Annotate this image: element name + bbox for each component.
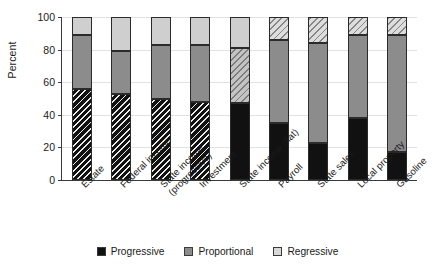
- bar-segment-progressive: [111, 94, 131, 180]
- bar-segment-proportional: [111, 51, 131, 93]
- legend-label: Regressive: [287, 246, 338, 257]
- bar: [111, 17, 131, 180]
- bar-segment-proportional: [348, 35, 368, 118]
- bar-segment-proportional: [72, 35, 92, 89]
- bar-segment-regressive: [151, 17, 171, 45]
- y-axis-label: Percent: [6, 20, 18, 100]
- legend-swatch-icon: [184, 247, 193, 256]
- chart-legend: ProgressiveProportionalRegressive: [0, 246, 435, 257]
- y-axis-tick-label: 20: [25, 141, 55, 153]
- bar-segment-proportional: [151, 45, 171, 99]
- legend-item: Regressive: [273, 246, 338, 257]
- legend-label: Progressive: [111, 246, 165, 257]
- y-axis-tick-label: 40: [25, 109, 55, 121]
- bar: [72, 17, 92, 180]
- bar-segment-proportional: [269, 40, 289, 123]
- y-axis-tick-label: 80: [25, 44, 55, 56]
- y-axis-tick-label: 100: [25, 11, 55, 23]
- y-axis-tick: [58, 180, 62, 181]
- bar-segment-regressive: [190, 17, 210, 45]
- legend-item: Proportional: [184, 246, 253, 257]
- bar-segment-proportional: [230, 48, 250, 103]
- bar-segment-regressive: [111, 17, 131, 51]
- legend-label: Proportional: [198, 246, 253, 257]
- bar-segment-regressive: [308, 17, 328, 43]
- x-axis-tick-labels: EstateFederal incomeState income (progre…: [62, 182, 422, 244]
- legend-item: Progressive: [97, 246, 165, 257]
- bar-segment-proportional: [190, 45, 210, 102]
- y-axis-tick-label: 0: [25, 174, 55, 186]
- bar-segment-regressive: [348, 17, 368, 35]
- bar-segment-progressive: [72, 89, 92, 180]
- bar-segment-progressive: [230, 103, 250, 180]
- legend-swatch-icon: [273, 247, 282, 256]
- bar-segment-proportional: [308, 43, 328, 142]
- bars-layer: [62, 17, 417, 180]
- bar-segment-proportional: [387, 35, 407, 152]
- bar: [308, 17, 328, 180]
- y-axis-tick-label: 60: [25, 76, 55, 88]
- bar-segment-regressive: [72, 17, 92, 35]
- stacked-bar-chart: Percent 020406080100 EstateFederal incom…: [0, 0, 435, 267]
- bar-segment-regressive: [269, 17, 289, 40]
- bar-segment-regressive: [387, 17, 407, 35]
- bar-segment-regressive: [230, 17, 250, 48]
- legend-swatch-icon: [97, 247, 106, 256]
- plot-area: 020406080100: [62, 17, 417, 180]
